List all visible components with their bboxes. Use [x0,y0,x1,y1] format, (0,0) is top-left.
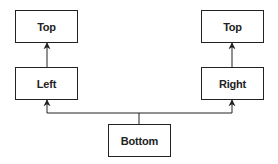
node-label: Top [223,21,242,33]
node-top-right: Top [201,10,264,43]
node-label: Right [219,78,246,90]
node-bottom: Bottom [108,124,171,157]
node-left: Left [15,67,78,100]
inheritance-diagram: Top Left Top Right Bottom [0,0,278,164]
node-right: Right [201,67,264,100]
node-label: Top [37,21,56,33]
node-label: Left [37,78,56,90]
node-top-left: Top [15,10,78,43]
node-label: Bottom [121,135,158,147]
